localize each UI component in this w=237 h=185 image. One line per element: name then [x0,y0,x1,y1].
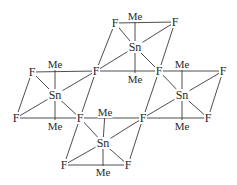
atom-label-text: Me [128,73,143,85]
atom-sn: Sn [175,88,190,102]
atom-sn: Sn [128,40,143,54]
bond-F3-Fb1 [32,71,96,72]
atom-me: Me [48,120,63,132]
atom-sn: Sn [48,88,63,102]
polymer-structure-diagram: FMeFSnMeFFFMeSnFMeMeFSnFMeFFMeSnFFMe [0,0,237,185]
atom-label-text: Me [48,120,63,132]
atom-f: F [111,16,119,30]
atom-me: Me [98,106,113,118]
atom-me: Me [96,166,111,178]
bond-F1-F2 [115,22,175,23]
atom-f: F [92,64,100,78]
atom-label-text: F [205,111,212,125]
atom-label-text: F [220,64,227,78]
atom-sn: Sn [96,136,111,150]
atom-label-text: Sn [176,88,189,102]
atom-f: F [60,158,68,172]
atom-label-text: Me [96,166,111,178]
atom-me: Me [128,73,143,85]
atom-f: F [76,111,84,125]
atom-label-text: F [125,158,132,172]
atom-me: Me [175,58,190,70]
atom-f: F [12,111,20,125]
atom-me: Me [128,10,143,22]
atom-label-text: F [61,158,68,172]
atom-me: Me [175,120,190,132]
atom-label-text: Me [98,106,113,118]
atom-label-text: F [77,111,84,125]
atom-f: F [139,111,147,125]
atom-label-text: Sn [49,88,62,102]
atom-f: F [155,64,163,78]
atom-label-text: F [29,65,36,79]
atom-label-text: Me [175,58,190,70]
bond-lines [16,16,223,172]
atom-me: Me [48,58,63,70]
atom-f: F [204,111,212,125]
atom-label-text: F [172,15,179,29]
atom-label-text: Me [48,58,63,70]
atom-label-text: F [93,64,100,78]
atom-label-text: Me [128,10,143,22]
atom-label-text: F [140,111,147,125]
atom-f: F [124,158,132,172]
atom-label-text: F [156,64,163,78]
atom-label-text: Sn [129,40,142,54]
atom-f: F [171,15,179,29]
atom-label-text: Sn [97,136,110,150]
atom-label-text: F [112,16,119,30]
atom-labels: FMeFSnMeFFFMeSnFMeMeFSnFMeFFMeSnFFMe [12,10,227,178]
atom-label-text: Me [175,120,190,132]
atom-f: F [219,64,227,78]
atom-f: F [28,65,36,79]
atom-label-text: F [13,111,20,125]
